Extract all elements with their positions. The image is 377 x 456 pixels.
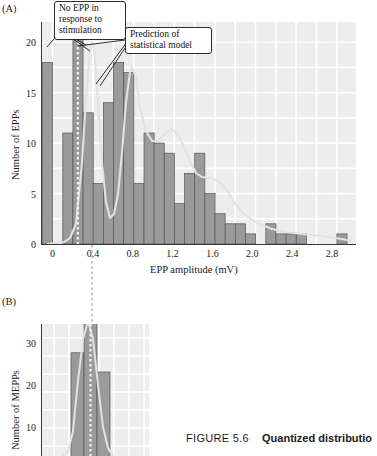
panel-a-x-axis (41, 244, 356, 245)
panel-a-xtick-2.4: 2.4 (282, 248, 302, 259)
panel-b-letter: (B) (2, 296, 16, 307)
panel-a-xtick-1.2: 1.2 (163, 248, 183, 259)
callout-no-epp: No EPP in response to stimulation (54, 1, 126, 40)
panel-a-letter: (A) (2, 3, 17, 14)
figure-caption-number: FIGURE 5.6 (186, 432, 249, 444)
figure-caption: FIGURE 5.6 Quantized distributio (186, 432, 377, 444)
panel-a-xtick-2.0: 2.0 (242, 248, 262, 259)
panel-a: (A) (0, 0, 362, 290)
panel-a-xtick-0.8: 0.8 (123, 248, 143, 259)
panel-a-ytick-15: 15 (13, 88, 36, 99)
callout-prediction: Prediction of statistical model (125, 27, 212, 54)
panel-a-xtick-0.4: 0.4 (83, 248, 103, 259)
panel-b-plot-area (42, 324, 149, 456)
panel-a-chart (42, 22, 356, 244)
panel-a-ytick-5: 5 (16, 189, 36, 200)
panel-a-yaxis-title: Number of EPPs (10, 109, 21, 180)
panel-b-yaxis-title: Number of MEPPs (10, 370, 21, 450)
panel-a-ytick-20: 20 (13, 37, 36, 48)
panel-b-y-axis (41, 324, 42, 456)
panel-a-xtick-2.8: 2.8 (322, 248, 342, 259)
panel-a-ytick-0: 0 (16, 239, 36, 250)
panel-a-y-axis (41, 22, 42, 245)
panel-b-chart (42, 324, 149, 456)
figure-caption-title: Quantized distributio (262, 432, 372, 444)
panel-a-plot-area (42, 22, 356, 244)
panel-a-xaxis-title: EPP amplitude (mV) (150, 264, 238, 275)
panel-a-xtick-0: 0 (43, 248, 63, 259)
panel-b-ytick-30: 30 (13, 338, 36, 349)
panel-a-xtick-1.6: 1.6 (203, 248, 223, 259)
